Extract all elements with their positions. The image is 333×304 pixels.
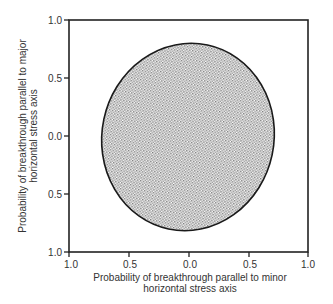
x-tick-label: 0.0	[183, 259, 197, 270]
y-tick-label: 0.5	[48, 73, 62, 84]
y-tick-label: 1.0	[48, 247, 62, 258]
y-axis-title-line-2: horizontal stress axis	[28, 89, 39, 182]
x-axis-title-line-2: horizontal stress axis	[143, 283, 236, 294]
y-tick-label: 0.0	[48, 131, 62, 142]
y-tick-label: 1.0	[48, 15, 62, 26]
x-tick-label: 1.0	[64, 259, 78, 270]
x-tick-label: 0.5	[123, 259, 137, 270]
x-tick-label: 0.5	[243, 259, 257, 270]
probability-ellipse	[84, 27, 291, 247]
probability-ellipse-chart: 1.0 0.5 0.0 0.5 1.0 1.0 0.5 0.0 0.5 1.0 …	[0, 0, 333, 304]
x-axis-title-line-1: Probability of breakthrough parallel to …	[93, 272, 287, 283]
x-tick-label: 1.0	[301, 259, 315, 270]
y-tick-label: 0.5	[48, 189, 62, 200]
y-axis-title-line-1: Probability of breakthrough parallel to …	[17, 39, 28, 233]
